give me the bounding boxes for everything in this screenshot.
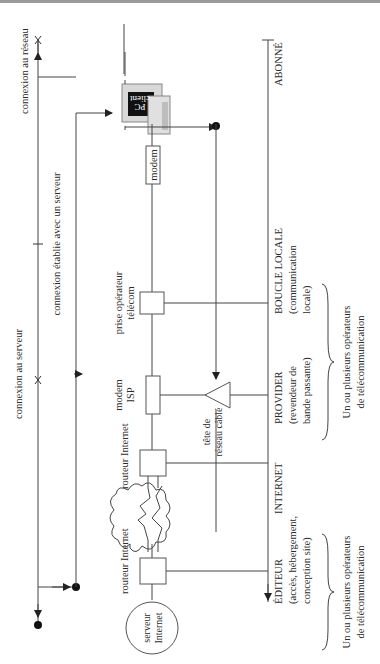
svg-text:locale): locale)	[301, 285, 313, 314]
endpoint-dot	[34, 621, 42, 629]
svg-text:bande passante): bande passante)	[301, 357, 313, 424]
telecom-socket-label: prise opérateur	[113, 271, 124, 334]
router-2-label: routeur Internet	[119, 528, 130, 594]
svg-text:(revendeur de: (revendeur de	[287, 366, 299, 424]
brace-1	[322, 284, 334, 440]
svg-text:(accès, hébergement,: (accès, hébergement,	[287, 516, 299, 604]
svg-text:réseau câblé: réseau câblé	[213, 407, 224, 457]
label-connexion-reseau: connexion au réseau	[19, 28, 30, 114]
segment-provider: PROVIDER	[273, 371, 284, 424]
isp-modem-box	[146, 376, 160, 414]
segment-boucle-locale: BOUCLE LOCALE	[273, 228, 284, 314]
svg-text:Internet: Internet	[153, 612, 164, 643]
cable-head-label: tête de	[201, 418, 212, 445]
isp-modem-label: modem	[113, 379, 124, 411]
modem-label: modem	[148, 149, 159, 181]
server-label: serveur	[141, 613, 152, 643]
svg-text:télécom: télécom	[125, 286, 136, 319]
telecom-socket-box	[140, 292, 164, 314]
server-connection-line	[38, 64, 112, 591]
router-2-box	[140, 558, 166, 584]
svg-text:conception site): conception site)	[301, 537, 313, 604]
router-1-label: routeur Internet	[119, 423, 130, 489]
network-diagram: connexion au réseau connexion au serveur…	[0, 0, 380, 664]
operators-label-1: Un ou plusieurs opérateurs	[341, 306, 352, 419]
pc-label-client: client	[130, 94, 150, 104]
router-1-box	[140, 450, 166, 476]
operators-label-2: Un ou plusieurs opérateurs	[341, 536, 352, 649]
label-connexion-serveur: connexion au serveur	[13, 329, 24, 419]
internet-server-circle	[126, 602, 178, 654]
svg-text:ISP: ISP	[125, 387, 136, 402]
label-connexion-etablie: connexion établie avec un serveur	[51, 172, 62, 315]
brace-2	[322, 534, 334, 650]
svg-text:de télécommunication: de télécommunication	[355, 545, 366, 639]
cable-head-triangle	[205, 382, 230, 408]
svg-text:(communication: (communication	[287, 244, 299, 314]
segment-editeur: ÉDITEUR	[273, 559, 284, 604]
segment-internet: INTERNET	[273, 462, 284, 514]
segment-abonne: ABONNÉ	[273, 42, 284, 86]
svg-text:de télécommunication: de télécommunication	[355, 315, 366, 409]
network-connection-line	[33, 36, 43, 629]
